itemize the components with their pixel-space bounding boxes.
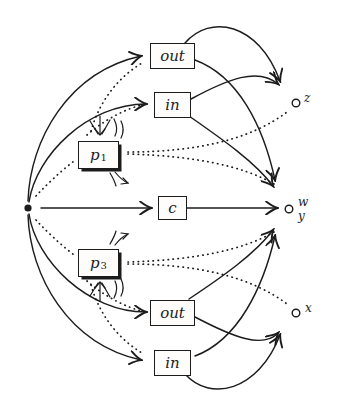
diagram-canvas: out in p1 c p3 out in z w y x	[0, 0, 337, 409]
box-out-top-label: out	[160, 49, 185, 64]
start-dot	[24, 204, 31, 211]
dotted-p1-to-w	[128, 154, 274, 184]
box-p1: p1	[78, 141, 119, 169]
box-p3-label: p	[90, 256, 100, 271]
box-out-bottom: out	[150, 300, 195, 326]
box-out-top: out	[150, 43, 195, 69]
place-w-label: w	[298, 196, 308, 208]
box-p3-subscript: 3	[101, 261, 107, 271]
box-out-bottom-label: out	[160, 306, 185, 321]
box-c-label: c	[168, 201, 176, 216]
dotted-p1-to-z	[128, 112, 287, 152]
place-x-circle	[292, 309, 300, 317]
box-in-top-label: in	[165, 98, 179, 113]
place-x-label: x	[305, 302, 312, 314]
box-in-bottom-label: in	[165, 356, 179, 371]
place-wy-circle	[285, 205, 293, 213]
edge-in-bottom-to-x	[185, 335, 280, 389]
dotted-p3-to-w	[128, 232, 274, 262]
box-in-bottom: in	[154, 350, 191, 376]
edge-out-bottom-to-x	[195, 317, 278, 340]
box-in-top: in	[154, 92, 191, 118]
place-z-label: z	[304, 92, 310, 104]
dotted-p3-to-x	[128, 264, 287, 304]
box-p3: p3	[78, 249, 119, 277]
edge-out-top-to-z	[185, 27, 280, 81]
edge-in-top-to-z	[191, 76, 278, 99]
box-p1-subscript: 1	[101, 153, 107, 163]
box-c: c	[158, 196, 187, 220]
box-p1-label: p	[90, 148, 100, 163]
edge-in-top-to-w	[189, 116, 273, 186]
place-z-circle	[292, 99, 300, 107]
place-y-label: y	[298, 210, 305, 222]
